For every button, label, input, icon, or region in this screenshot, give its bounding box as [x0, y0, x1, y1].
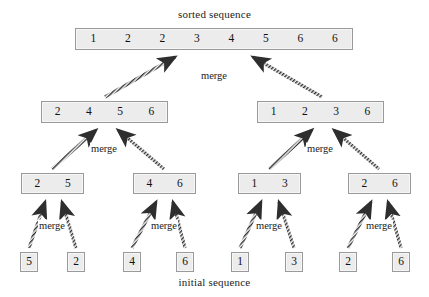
sequence-value: 5 [249, 33, 284, 45]
sequence-value: 6 [136, 106, 167, 118]
sequence-box: 13 [238, 173, 301, 194]
merge-label: merge [255, 220, 283, 231]
merge-label: merge [150, 220, 178, 231]
sequence-value: 2 [22, 178, 53, 190]
sequence-box: 26 [348, 173, 411, 194]
merge-arrow-icon [253, 57, 322, 97]
sequence-value: 6 [283, 33, 318, 45]
merge-label: merge [90, 143, 118, 154]
element-box: 1 [231, 252, 249, 272]
element-box: 2 [67, 252, 85, 272]
merge-label: merge [200, 70, 228, 81]
bottom-caption: initial sequence [0, 276, 429, 288]
sequence-value: 2 [345, 256, 351, 268]
sequence-value: 4 [73, 106, 104, 118]
sequence-value: 2 [42, 106, 73, 118]
element-box: 6 [392, 252, 410, 272]
element-box: 5 [20, 252, 38, 272]
sequence-value: 5 [105, 106, 136, 118]
sequence-value: 6 [352, 106, 383, 118]
sequence-value: 3 [321, 106, 352, 118]
sequence-value: 6 [398, 256, 404, 268]
sequence-box: 25 [21, 173, 84, 194]
merge-arrow-icon [334, 130, 379, 169]
sequence-value: 2 [145, 33, 180, 45]
sequence-value: 3 [180, 33, 215, 45]
sequence-value: 2 [111, 33, 146, 45]
merge-arrow-icon [105, 57, 175, 97]
merge-label: merge [365, 220, 393, 231]
sequence-value: 6 [165, 178, 196, 190]
sequence-value: 6 [380, 178, 411, 190]
merge-label: merge [38, 220, 66, 231]
sequence-value: 5 [26, 256, 32, 268]
merge-arrow-icon [118, 130, 164, 169]
sequence-value: 6 [318, 33, 353, 45]
sequence-box: 2456 [41, 101, 168, 123]
sequence-value: 4 [134, 178, 165, 190]
sequence-box: 1236 [257, 101, 384, 123]
sequence-value: 4 [214, 33, 249, 45]
merge-arrows [29, 57, 401, 248]
sequence-value: 2 [73, 256, 79, 268]
sequence-value: 3 [270, 178, 301, 190]
element-box: 6 [176, 252, 194, 272]
element-box: 4 [123, 252, 141, 272]
sequence-value: 1 [76, 33, 111, 45]
merge-sort-diagram: sorted sequence initial sequence 1223456… [0, 0, 429, 297]
sequence-value: 4 [129, 256, 135, 268]
sequence-box: 12234566 [75, 28, 353, 50]
sequence-value: 1 [239, 178, 270, 190]
sequence-value: 5 [53, 178, 84, 190]
sequence-value: 6 [182, 256, 188, 268]
element-box: 3 [285, 252, 303, 272]
merge-label: merge [306, 143, 334, 154]
sequence-value: 3 [291, 256, 297, 268]
sequence-value: 2 [289, 106, 320, 118]
sequence-box: 46 [133, 173, 196, 194]
sequence-value: 2 [349, 178, 380, 190]
sequence-value: 1 [237, 256, 243, 268]
top-caption: sorted sequence [0, 8, 429, 20]
element-box: 2 [339, 252, 357, 272]
sequence-value: 1 [258, 106, 289, 118]
